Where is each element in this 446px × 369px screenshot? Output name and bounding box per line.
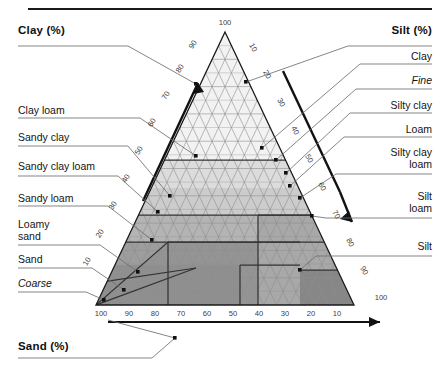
tick-right-80: 80	[344, 237, 356, 249]
tick-bottom-40: 40	[255, 309, 263, 318]
tick-left-30: 30	[107, 200, 119, 212]
tick-right-90: 90	[358, 265, 370, 277]
tick-clay-100: 100	[219, 18, 232, 27]
tick-right-100: 100	[375, 293, 388, 302]
tick-right-30: 30	[275, 97, 287, 109]
tick-left-60: 60	[146, 117, 158, 129]
tick-right-40: 40	[289, 125, 301, 137]
tick-bottom-80: 80	[151, 309, 159, 318]
figure-root: Clay (%) Silt (%) Sand (%) Clay loam San…	[0, 0, 446, 369]
tick-left-50: 50	[133, 145, 145, 157]
tick-right-60: 60	[316, 181, 328, 193]
ternary-diagram: 100 90 80 70 60 50 40 30 20 10 10 20 30 …	[0, 0, 446, 369]
tick-bottom-70: 70	[177, 309, 185, 318]
tick-bottom-100: 100	[95, 309, 108, 318]
tick-right-20: 20	[261, 69, 273, 81]
tick-bottom-10: 10	[333, 309, 341, 318]
silt-arrowhead	[340, 211, 352, 222]
ternary-grid	[0, 32, 444, 305]
tick-bottom-90: 90	[125, 309, 133, 318]
sand-arrowhead	[369, 317, 380, 327]
tick-bottom-30: 30	[281, 309, 289, 318]
tick-left-70: 70	[160, 90, 172, 102]
tick-bottom-60: 60	[203, 309, 211, 318]
tick-bottom-20: 20	[307, 309, 315, 318]
tick-left-90: 90	[187, 39, 199, 51]
tick-right-70: 70	[330, 209, 342, 221]
tick-left-10: 10	[81, 256, 93, 268]
tick-left-40: 40	[120, 173, 132, 185]
tick-right-50: 50	[303, 153, 315, 165]
tick-left-20: 20	[94, 228, 106, 240]
tick-bottom-50: 50	[229, 309, 237, 318]
shaded-bands	[90, 28, 360, 307]
tick-right-10: 10	[247, 42, 259, 54]
